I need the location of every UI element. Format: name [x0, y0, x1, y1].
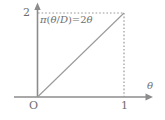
- origin-label: O: [29, 100, 38, 111]
- equation-equals: =: [72, 14, 80, 25]
- y-axis-tick-label-2: 2: [23, 7, 30, 18]
- equation-annotation: π(θ/D)=2θ: [40, 15, 93, 25]
- x-axis-tick-label-1: 1: [121, 100, 128, 111]
- equation-pi-symbol: π: [40, 14, 47, 25]
- arrow-up-icon: [34, 3, 40, 11]
- x-axis-label-theta: θ: [147, 81, 153, 91]
- equation-d-symbol: D: [60, 14, 68, 25]
- equation-theta-rhs: θ: [87, 14, 93, 25]
- series-line-pi-theta: [38, 13, 125, 97]
- function-plot-figure: 2 O 1 θ π(θ/D)=2θ: [0, 0, 165, 120]
- arrow-right-icon: [146, 94, 154, 101]
